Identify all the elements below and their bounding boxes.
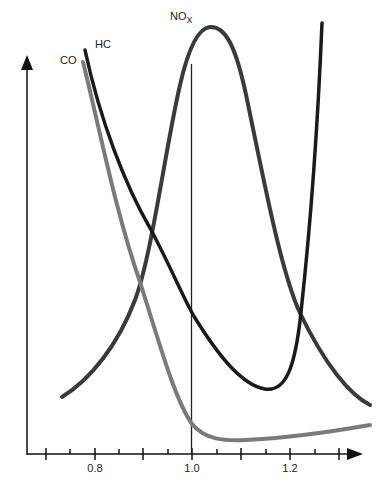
- series-label-nox: NOX: [170, 10, 193, 25]
- nox-label-subscript: X: [187, 15, 193, 25]
- x-axis: [27, 448, 363, 460]
- series-label-co: CO: [60, 54, 77, 66]
- co-curve: [83, 62, 370, 440]
- emissions-chart: [0, 0, 390, 495]
- x-tick-label-0.8: 0.8: [87, 462, 102, 474]
- x-tick-label-1.2: 1.2: [282, 462, 297, 474]
- series-label-hc: HC: [95, 38, 111, 50]
- nox-label-main: NO: [170, 10, 187, 22]
- y-axis: [21, 55, 33, 455]
- x-tick-label-1.0: 1.0: [184, 462, 199, 474]
- x-axis-arrow-icon: [347, 448, 363, 460]
- y-axis-arrow-icon: [21, 55, 33, 70]
